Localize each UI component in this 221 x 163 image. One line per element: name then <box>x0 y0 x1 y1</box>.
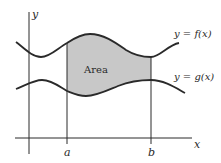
shaded-area-region <box>67 34 151 96</box>
bound-b-label: b <box>148 146 155 159</box>
y-axis-label: y <box>31 8 39 21</box>
x-axis-label: x <box>194 138 201 151</box>
diagram-canvas: y x a b Area y = f(x) y = g(x) <box>0 0 221 163</box>
curve-f-label: y = f(x) <box>173 28 212 39</box>
bound-a-label: a <box>64 146 71 159</box>
curve-g-label: y = g(x) <box>173 71 214 82</box>
area-between-curves-diagram: y x a b Area y = f(x) y = g(x) <box>0 0 221 163</box>
area-label: Area <box>83 64 108 75</box>
